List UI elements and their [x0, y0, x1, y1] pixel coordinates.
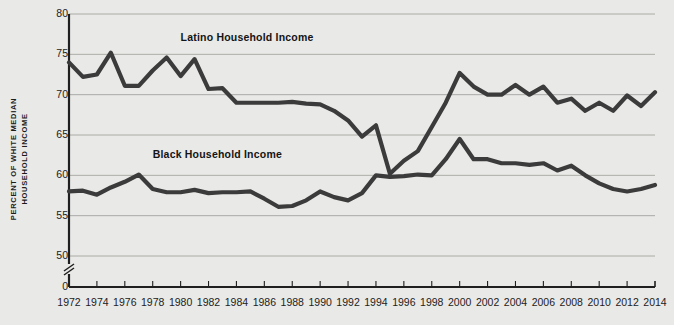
- x-tick-label: 1974: [85, 296, 108, 308]
- x-tick-label: 1976: [113, 296, 136, 308]
- x-tick-label: 1982: [197, 296, 220, 308]
- x-tick-label: 1984: [225, 296, 248, 308]
- x-tick-label: 1980: [169, 296, 192, 308]
- x-tick-label: 2006: [532, 296, 555, 308]
- x-tick-label: 1994: [364, 296, 387, 308]
- x-tick-label: 2014: [643, 296, 666, 308]
- x-tick-label: 2012: [615, 296, 638, 308]
- x-tick-label: 1978: [141, 296, 164, 308]
- x-tick-label: 1992: [336, 296, 359, 308]
- x-tick-label: 1972: [57, 296, 80, 308]
- x-tick-label: 2010: [588, 296, 611, 308]
- series-label-black: Black Household Income: [153, 148, 282, 160]
- x-tick-label: 2008: [560, 296, 583, 308]
- x-tick-label: 2002: [476, 296, 499, 308]
- x-tick-label: 1988: [281, 296, 304, 308]
- x-tick-label: 1996: [392, 296, 415, 308]
- x-tick-label: 1998: [420, 296, 443, 308]
- x-tick-label: 1990: [308, 296, 331, 308]
- x-tick-label: 2004: [504, 296, 527, 308]
- chart-plot-area: [0, 0, 674, 325]
- series-label-latino: Latino Household Income: [181, 31, 314, 43]
- chart-container: PERCENT OF WHITE MEDIAN HOUSEHOLD INCOME…: [0, 0, 674, 325]
- x-tick-label: 1986: [253, 296, 276, 308]
- x-tick-label: 2000: [448, 296, 471, 308]
